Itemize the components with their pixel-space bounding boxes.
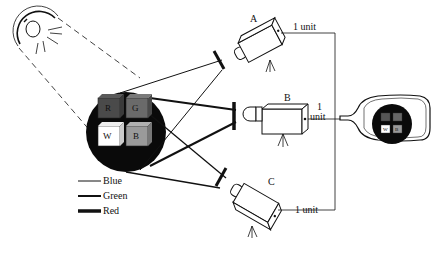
camera-b <box>243 104 308 134</box>
tripod-a <box>266 60 275 72</box>
camera-b-label: B <box>284 92 291 103</box>
filters <box>214 51 234 186</box>
tripod-b <box>278 134 288 147</box>
camera-c-label: C <box>268 176 275 187</box>
diagram-canvas: R G W B <box>0 0 436 253</box>
camera-c <box>224 179 284 229</box>
tv-monitor-icon: W B <box>340 95 430 144</box>
cube-w: W <box>98 122 124 146</box>
svg-text:B: B <box>133 131 139 141</box>
wire-b-label-2: unit <box>310 111 326 122</box>
cube-b: B <box>126 122 152 146</box>
svg-text:R: R <box>105 103 111 113</box>
svg-text:W: W <box>383 127 388 132</box>
wire-a-label: 1 unit <box>293 21 316 32</box>
camera-a-label: A <box>250 13 258 24</box>
legend-red: Red <box>103 205 119 216</box>
legend: Blue Green Red <box>78 175 127 216</box>
camera-a <box>229 18 288 66</box>
tripod-c <box>248 226 257 238</box>
cube-g: G <box>126 94 152 118</box>
cube-r: R <box>98 94 124 118</box>
legend-green: Green <box>103 190 127 201</box>
svg-text:W: W <box>103 131 112 141</box>
wire-c-label: 1 unit <box>295 204 318 215</box>
light-bulb-icon <box>13 6 62 54</box>
svg-text:G: G <box>132 103 139 113</box>
legend-blue: Blue <box>103 175 122 186</box>
